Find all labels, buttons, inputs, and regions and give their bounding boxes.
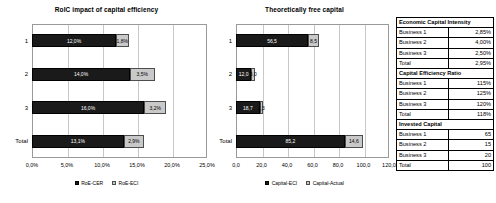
legend-label: Capital-Actual [313, 180, 344, 186]
x-tick-label: 10,0% [88, 162, 116, 168]
table-cell-value: 100 [449, 160, 494, 170]
table-cell-value: 115% [449, 79, 494, 89]
bar-row: 18,72,3 [236, 101, 263, 114]
table-cell-label: Total [397, 109, 449, 119]
bar-row: 16,0%3,2% [32, 101, 166, 114]
legend-label: Capital-ECI [272, 180, 298, 186]
legend-swatch-icon [306, 181, 310, 185]
table-section-header: Invested Capital [397, 120, 494, 130]
chart-title: Theoretically free capital [213, 6, 396, 13]
table-cell-label: Business 1 [397, 79, 449, 89]
category-label: Total [206, 138, 232, 144]
table-section-header: Economic Capital Intensity [397, 18, 494, 28]
category-label: 1 [2, 38, 28, 44]
table-row: Business 165 [397, 130, 494, 140]
chart-roic-impact: RoIC impact of capital efficiency RoE-CE… [0, 0, 213, 203]
bar-segment-capital-eci: 56,5 [236, 34, 308, 47]
table-row: Business 1115% [397, 79, 494, 89]
x-tick-label: 15,0% [123, 162, 151, 168]
table-section-header-row: Economic Capital Intensity [397, 18, 494, 28]
table-row: Business 12,85% [397, 28, 494, 38]
table-row: Business 3120% [397, 99, 494, 109]
bar-segment-capital-actual: 14,6 [345, 135, 364, 148]
table-cell-value: 2,50% [449, 48, 494, 58]
figure-root: RoIC impact of capital efficiency RoE-CE… [0, 0, 496, 203]
bar-row: 14,0%3,5% [32, 68, 155, 81]
category-label: 3 [206, 105, 232, 111]
x-tick-label: 20,0% [158, 162, 186, 168]
summary-table: Economic Capital IntensityBusiness 12,85… [396, 17, 494, 171]
category-label: 2 [206, 71, 232, 77]
x-tick-label: 0,0 [222, 162, 250, 168]
legend-label: RoE-ECI [119, 180, 139, 186]
chart-theoretically-free-capital: Theoretically free capital Capital-ECICa… [213, 0, 396, 203]
bar-segment-roe-eci: 1,8% [116, 34, 129, 47]
table-row: Business 215 [397, 140, 494, 150]
table-cell-label: Total [397, 58, 449, 68]
bar-segment-roe-eci: 3,2% [144, 101, 166, 114]
bar-segment-capital-actual: 8,5 [308, 34, 319, 47]
category-label: 2 [2, 71, 28, 77]
table-section-header: Capital Efficiency Ratio [397, 69, 494, 79]
bar-row: 13,1%2,9% [32, 135, 144, 148]
table-cell-label: Business 2 [397, 140, 449, 150]
gridline [173, 25, 174, 157]
x-tick-label: 80,0 [324, 162, 352, 168]
gridline [365, 25, 366, 157]
table-cell-value: 65 [449, 130, 494, 140]
bar-segment-capital-actual: 3,0 [251, 68, 255, 81]
bar-row: 85,214,6 [236, 135, 363, 148]
bar-row: 12,0%1,8% [32, 34, 129, 47]
legend-item[interactable]: RoE-ECI [112, 180, 138, 186]
table-cell-value: 15 [449, 140, 494, 150]
legend-swatch-icon [265, 181, 269, 185]
table-cell-value: 118% [449, 109, 494, 119]
bar-segment-capital-eci: 85,2 [236, 135, 345, 148]
legend-item[interactable]: RoE-CER [75, 180, 103, 186]
bar-segment-roe-eci: 3,5% [130, 68, 155, 81]
bar-segment-capital-actual: 2,3 [260, 101, 263, 114]
table-cell-label: Total [397, 160, 449, 170]
table-cell-value: 2,85% [449, 28, 494, 38]
legend-swatch-icon [75, 181, 79, 185]
table-cell-value: 20 [449, 150, 494, 160]
table-row: Total100 [397, 160, 494, 170]
table-section-header-row: Invested Capital [397, 120, 494, 130]
legend-item[interactable]: Capital-Actual [306, 180, 344, 186]
table-row: Total2,95% [397, 58, 494, 68]
table-section-header-row: Capital Efficiency Ratio [397, 69, 494, 79]
table-cell-label: Business 3 [397, 99, 449, 109]
table-cell-label: Business 2 [397, 89, 449, 99]
legend-swatch-icon [112, 181, 116, 185]
category-label: 1 [206, 38, 232, 44]
bar-segment-roe-eci: 2,9% [124, 135, 144, 148]
table-cell-label: Business 3 [397, 48, 449, 58]
table-cell-value: 120% [449, 99, 494, 109]
bar-row: 12,03,0 [236, 68, 255, 81]
table-cell-value: 2,95% [449, 58, 494, 68]
legend-item[interactable]: Capital-ECI [265, 180, 297, 186]
x-tick-label: 0,0% [18, 162, 46, 168]
table-cell-label: Business 2 [397, 38, 449, 48]
x-tick-label: 100,0 [350, 162, 378, 168]
table-row: Business 32,50% [397, 48, 494, 58]
x-tick-label: 5,0% [53, 162, 81, 168]
bar-segment-roe-cer: 12,0% [32, 34, 116, 47]
category-label: Total [2, 138, 28, 144]
bar-segment-roe-cer: 14,0% [32, 68, 130, 81]
chart-legend: Capital-ECICapital-Actual [213, 180, 396, 186]
x-tick-label: 40,0 [273, 162, 301, 168]
table-cell-label: Business 3 [397, 150, 449, 160]
x-tick-label: 20,0 [248, 162, 276, 168]
table-cell-value: 4,00% [449, 38, 494, 48]
legend-label: RoE-CER [81, 180, 103, 186]
category-label: 3 [2, 105, 28, 111]
table-cell-value: 125% [449, 89, 494, 99]
table-row: Total118% [397, 109, 494, 119]
bar-segment-roe-cer: 16,0% [32, 101, 144, 114]
x-tick-label: 60,0 [299, 162, 327, 168]
chart-legend: RoE-CERRoE-ECI [0, 180, 213, 186]
bar-row: 56,58,5 [236, 34, 319, 47]
bar-segment-capital-eci: 18,7 [236, 101, 260, 114]
table-row: Business 2125% [397, 89, 494, 99]
